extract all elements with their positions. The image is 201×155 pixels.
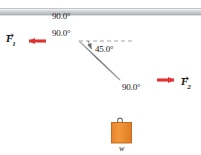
angle-indicator-45 — [88, 41, 92, 49]
vector-arrow-icon — [6, 33, 14, 37]
angle-label-diagonal: 45.0° — [95, 45, 113, 54]
vector-arrow-icon — [181, 76, 189, 80]
force-label-f1-sub: 1 — [12, 40, 16, 48]
angle-label-knot: 90.0° — [52, 29, 70, 38]
force-label-f2: F 2 — [181, 76, 192, 90]
physics-diagram: 90.0° 90.0° 45.0° 90.0° F 1 F 2 w — [0, 0, 201, 155]
diagram-canvas — [0, 0, 201, 155]
force-label-f1: F 1 — [6, 33, 17, 47]
hanging-block — [112, 123, 132, 144]
angle-label-lower: 90.0° — [122, 83, 140, 92]
force-label-f2-sub: 2 — [187, 83, 191, 91]
angle-label-top: 90.0° — [52, 12, 70, 21]
support-beam — [0, 9, 201, 16]
weight-label: w — [119, 145, 124, 153]
